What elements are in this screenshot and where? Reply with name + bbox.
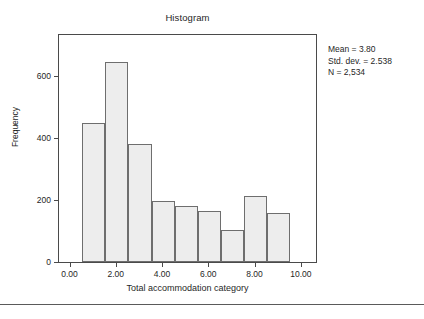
- histogram-bar: [128, 144, 151, 262]
- x-tick-mark: [255, 263, 256, 267]
- y-tick-label: 600: [37, 71, 51, 81]
- y-tick-mark: [54, 200, 58, 201]
- x-tick-mark: [301, 263, 302, 267]
- x-tick-label: 0.00: [53, 269, 87, 279]
- histogram-bar: [152, 201, 175, 262]
- stat-mean: Mean = 3.80: [328, 44, 392, 56]
- x-tick-label: 8.00: [238, 269, 272, 279]
- x-tick-mark: [162, 263, 163, 267]
- y-tick-mark: [54, 138, 58, 139]
- histogram-bar: [267, 213, 290, 262]
- plot-area: [59, 35, 316, 262]
- chart-title: Histogram: [58, 12, 317, 23]
- histogram-bar: [244, 196, 267, 262]
- y-tick-label: 200: [37, 195, 51, 205]
- stat-stddev: Std. dev. = 2.538: [328, 56, 392, 68]
- y-tick-label: 400: [37, 133, 51, 143]
- stat-n: N = 2,534: [328, 67, 392, 79]
- x-tick-mark: [208, 263, 209, 267]
- y-axis-title: Frequency: [10, 89, 20, 165]
- y-axis: 0200400600: [0, 34, 58, 263]
- histogram-bar: [105, 62, 128, 262]
- histogram-bar: [175, 206, 198, 262]
- plot-frame: [58, 34, 317, 263]
- histogram-bar: [198, 211, 221, 262]
- histogram-bar: [221, 230, 244, 262]
- x-tick-mark: [116, 263, 117, 267]
- x-tick-mark: [70, 263, 71, 267]
- x-tick-label: 10.00: [284, 269, 318, 279]
- histogram-figure: Histogram 0200400600 Frequency 0.002.004…: [0, 0, 424, 319]
- x-tick-label: 4.00: [145, 269, 179, 279]
- x-tick-label: 6.00: [191, 269, 225, 279]
- y-tick-mark: [54, 76, 58, 77]
- x-axis-title: Total accommodation category: [58, 283, 317, 293]
- bottom-divider: [0, 304, 424, 305]
- histogram-bar: [82, 123, 105, 262]
- statistics-annotation: Mean = 3.80 Std. dev. = 2.538 N = 2,534: [328, 44, 392, 79]
- x-tick-label: 2.00: [99, 269, 133, 279]
